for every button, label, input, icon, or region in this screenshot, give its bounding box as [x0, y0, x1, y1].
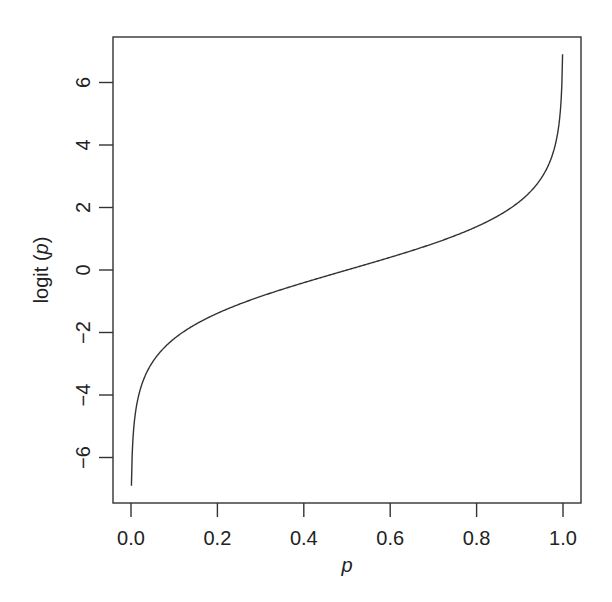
- logit-curve: [131, 54, 562, 486]
- y-axis-label: logit (p): [30, 237, 52, 304]
- y-tick-label: −2: [72, 321, 94, 344]
- y-tick-label: 2: [72, 202, 94, 213]
- y-tick-label: 6: [72, 77, 94, 88]
- y-tick-label: −4: [72, 384, 94, 407]
- x-tick-label: 0.4: [290, 527, 318, 549]
- x-tick-label: 1.0: [549, 527, 577, 549]
- x-axis-label: p: [340, 554, 352, 576]
- y-axis: −6−4−20246: [72, 77, 113, 469]
- y-tick-label: −6: [72, 446, 94, 469]
- logit-chart: 0.00.20.40.60.81.0 −6−4−20246 p logit (p…: [0, 0, 612, 602]
- y-tick-label: 0: [72, 264, 94, 275]
- x-tick-label: 0.6: [376, 527, 404, 549]
- y-tick-label: 4: [72, 139, 94, 150]
- x-tick-label: 0.0: [117, 527, 145, 549]
- x-tick-label: 0.8: [463, 527, 491, 549]
- x-axis: 0.00.20.40.60.81.0: [117, 503, 577, 549]
- x-tick-label: 0.2: [203, 527, 231, 549]
